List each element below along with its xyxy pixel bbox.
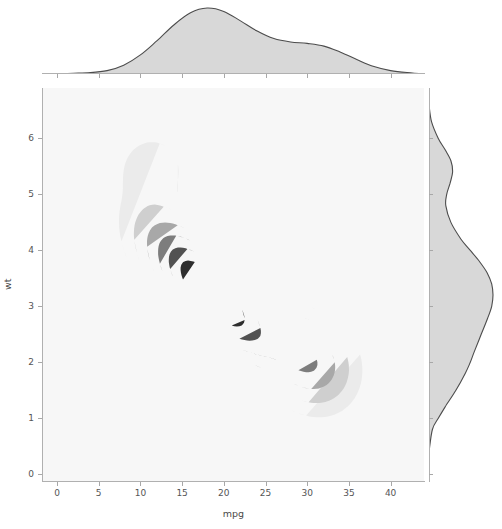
- marginal-y-tick: [429, 194, 433, 195]
- x-tick-mark: [140, 482, 141, 486]
- x-tick-mark: [182, 482, 183, 486]
- jointplot-figure: 0510152025303540 0123456 mpg wt: [0, 0, 502, 529]
- marginal-x-curve: [42, 4, 425, 74]
- marginal-density-x: [42, 4, 425, 74]
- marginal-y-tick: [429, 362, 433, 363]
- marginal-y-tick: [429, 250, 433, 251]
- x-tick-mark: [266, 482, 267, 486]
- y-tick-mark: [38, 418, 42, 419]
- x-tick-label: 25: [260, 489, 271, 498]
- marginal-x-tick: [266, 74, 267, 78]
- marginal-x-tick: [224, 74, 225, 78]
- x-tick-label: 35: [343, 489, 354, 498]
- x-tick-label: 20: [218, 489, 229, 498]
- y-axis-label: wt: [2, 279, 13, 291]
- y-tick-label: 6: [12, 134, 34, 143]
- marginal-y-tick: [429, 418, 433, 419]
- x-tick-label: 30: [301, 489, 312, 498]
- x-tick-mark: [307, 482, 308, 486]
- marginal-x-tick: [307, 74, 308, 78]
- contour-band-4: [169, 248, 261, 341]
- contour-band-5: [181, 261, 245, 327]
- x-tick-mark: [99, 482, 100, 486]
- x-tick-label: 5: [96, 489, 102, 498]
- y-tick-mark: [38, 194, 42, 195]
- y-tick-label: 4: [12, 246, 34, 255]
- y-axis-spine: [42, 88, 43, 482]
- marginal-x-tick: [99, 74, 100, 78]
- x-tick-mark: [391, 482, 392, 486]
- marginal-x-tick: [391, 74, 392, 78]
- x-tick-label: 10: [135, 489, 146, 498]
- x-tick-mark: [57, 482, 58, 486]
- joint-kde-contours: [42, 88, 424, 481]
- joint-kde-panel: [42, 88, 424, 481]
- x-tick-mark: [349, 482, 350, 486]
- contour-band-3: [158, 235, 317, 372]
- x-tick-label: 0: [54, 489, 60, 498]
- y-tick-label: 5: [12, 190, 34, 199]
- marginal-y-curve: [429, 88, 497, 482]
- y-tick-label: 1: [12, 414, 34, 423]
- y-tick-label: 2: [12, 358, 34, 367]
- marginal-density-y: [429, 88, 497, 482]
- y-tick-mark: [38, 250, 42, 251]
- marginal-y-tick: [429, 474, 433, 475]
- x-axis-label: mpg: [42, 508, 425, 519]
- marginal-x-tick: [182, 74, 183, 78]
- x-tick-label: 40: [385, 489, 396, 498]
- x-tick-mark: [224, 482, 225, 486]
- marginal-x-tick: [349, 74, 350, 78]
- y-tick-mark: [38, 306, 42, 307]
- x-tick-label: 15: [176, 489, 187, 498]
- y-tick-mark: [38, 362, 42, 363]
- contour-band-1: [134, 205, 349, 404]
- marginal-y-tick: [429, 306, 433, 307]
- y-tick-mark: [38, 138, 42, 139]
- y-tick-label: 0: [12, 470, 34, 479]
- y-tick-label: 3: [12, 302, 34, 311]
- contour-band-2: [147, 223, 335, 389]
- marginal-x-tick: [140, 74, 141, 78]
- marginal-x-tick: [57, 74, 58, 78]
- marginal-y-baseline: [429, 88, 430, 482]
- marginal-y-tick: [429, 138, 433, 139]
- y-tick-mark: [38, 474, 42, 475]
